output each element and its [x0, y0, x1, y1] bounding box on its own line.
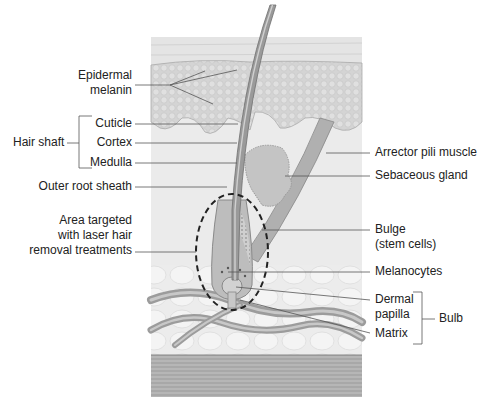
label-cuticle: Cuticle [40, 116, 132, 131]
label-epidermal-melanin: Epidermal melanin [40, 68, 132, 98]
label-line: (stem cells) [375, 237, 436, 252]
label-line: Dermal [375, 292, 414, 307]
label-dermal-papilla: Dermal papilla [375, 292, 414, 322]
hair-follicle-diagram [0, 0, 484, 405]
label-area-targeted: Area targeted with laser hair removal tr… [0, 213, 132, 258]
label-arrector-pili: Arrector pili muscle [375, 145, 477, 160]
label-line: with laser hair [0, 228, 132, 243]
label-bulge: Bulge (stem cells) [375, 222, 436, 252]
label-line: Bulge [375, 222, 436, 237]
label-bulb: Bulb [439, 311, 463, 326]
label-line: Area targeted [0, 213, 132, 228]
label-line: papilla [375, 307, 414, 322]
label-outer-root-sheath: Outer root sheath [0, 179, 132, 194]
label-cortex: Cortex [40, 135, 132, 150]
label-melanocytes: Melanocytes [375, 264, 442, 279]
label-sebaceous-gland: Sebaceous gland [375, 168, 468, 183]
label-line: removal treatments [0, 243, 132, 258]
label-line: Epidermal [40, 68, 132, 83]
label-matrix: Matrix [375, 326, 408, 341]
label-line: melanin [40, 83, 132, 98]
label-medulla: Medulla [40, 155, 132, 170]
